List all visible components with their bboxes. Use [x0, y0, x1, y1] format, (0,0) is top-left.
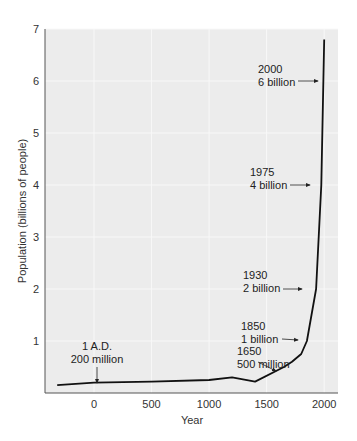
annotation-value: 500 million: [237, 358, 290, 370]
y-tick-label: 7: [33, 23, 39, 35]
y-tick-label: 5: [33, 127, 39, 139]
annotation-value: 6 billion: [258, 76, 295, 88]
annotation-value: 1 billion: [241, 333, 278, 345]
annotation-year: 2000: [258, 63, 282, 75]
x-tick-label: 2000: [312, 398, 336, 410]
annotation-year: 1930: [243, 269, 267, 281]
annotation-year: 1650: [237, 345, 261, 357]
annotation-value: 200 million: [71, 353, 124, 365]
annotation-year: 1850: [241, 320, 265, 332]
x-tick-label: 1000: [197, 398, 221, 410]
population-chart: 1234567 0500100015002000 Year Population…: [0, 0, 357, 441]
annotation-year: 1975: [250, 166, 274, 178]
annotation-value: 4 billion: [250, 179, 287, 191]
y-tick-label: 1: [33, 335, 39, 347]
y-tick-labels: 1234567: [33, 23, 39, 347]
x-axis-title: Year: [181, 414, 204, 426]
x-tick-label: 0: [91, 398, 97, 410]
y-tick-label: 3: [33, 231, 39, 243]
annotation-year: 1 A.D.: [82, 340, 112, 352]
x-tick-label: 1500: [254, 398, 278, 410]
y-axis-title: Population (billions of people): [16, 139, 28, 283]
x-tick-label: 500: [142, 398, 160, 410]
y-tick-label: 4: [33, 179, 39, 191]
y-tick-label: 2: [33, 283, 39, 295]
y-tick-label: 6: [33, 75, 39, 87]
annotation-value: 2 billion: [243, 282, 280, 294]
x-tick-labels: 0500100015002000: [91, 398, 337, 410]
